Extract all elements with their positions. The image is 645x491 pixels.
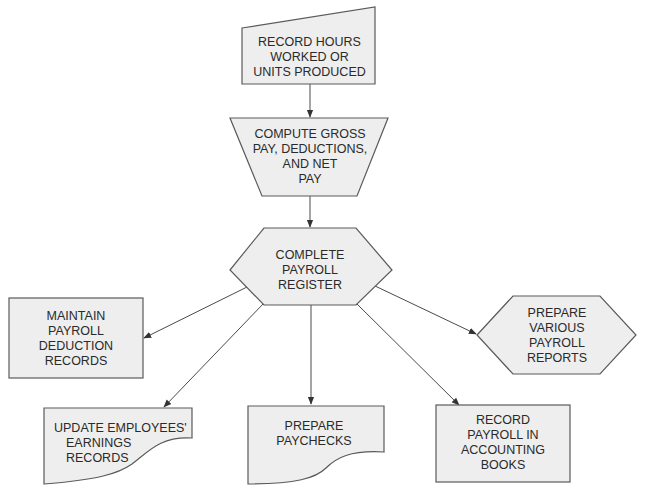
- node-line: REGISTER: [264, 278, 356, 293]
- node-record-accounting: RECORD PAYROLL IN ACCOUNTING BOOKS: [436, 413, 570, 473]
- edge-register-to-maintain: [144, 287, 247, 338]
- node-line: BOOKS: [436, 458, 570, 473]
- node-line: PAY: [234, 172, 386, 187]
- node-update-earnings: UPDATE EMPLOYEES' EARNINGS RECORDS: [54, 421, 194, 466]
- node-line: PAYROLL: [9, 324, 143, 339]
- node-record-hours: RECORD HOURS WORKED OR UNITS PRODUCED: [244, 35, 375, 80]
- node-line: ACCOUNTING: [436, 443, 570, 458]
- edge-register-to-update: [164, 303, 264, 407]
- node-line: COMPUTE GROSS: [234, 127, 386, 142]
- node-line: PAYROLL: [264, 263, 356, 278]
- node-line: UNITS PRODUCED: [244, 65, 375, 80]
- node-line: COMPLETE: [264, 248, 356, 263]
- node-line: RECORD: [436, 413, 570, 428]
- node-line: UPDATE EMPLOYEES': [54, 421, 194, 436]
- node-complete-register: COMPLETE PAYROLL REGISTER: [264, 248, 356, 293]
- node-line: MAINTAIN: [9, 309, 143, 324]
- node-line: PAYCHECKS: [252, 434, 376, 449]
- node-line: PAYROLL IN: [436, 428, 570, 443]
- node-line: REPORTS: [512, 351, 602, 366]
- node-line: PAYROLL: [512, 336, 602, 351]
- node-line: WORKED OR: [244, 50, 375, 65]
- node-line: EARNINGS: [54, 436, 194, 451]
- node-line: RECORDS: [9, 354, 143, 369]
- node-prepare-reports: PREPARE VARIOUS PAYROLL REPORTS: [512, 306, 602, 366]
- node-line: RECORDS: [54, 451, 194, 466]
- node-line: VARIOUS: [512, 321, 602, 336]
- node-prepare-paychecks: PREPARE PAYCHECKS: [252, 419, 376, 449]
- node-line: DEDUCTION: [9, 339, 143, 354]
- node-compute-gross: COMPUTE GROSS PAY, DEDUCTIONS, AND NET P…: [234, 127, 386, 187]
- node-line: RECORD HOURS: [244, 35, 375, 50]
- node-line: PREPARE: [252, 419, 376, 434]
- edge-register-to-reports: [373, 285, 476, 334]
- node-line: PAY, DEDUCTIONS,: [234, 142, 386, 157]
- node-line: AND NET: [234, 157, 386, 172]
- node-maintain-deduction: MAINTAIN PAYROLL DEDUCTION RECORDS: [9, 309, 143, 369]
- node-line: PREPARE: [512, 306, 602, 321]
